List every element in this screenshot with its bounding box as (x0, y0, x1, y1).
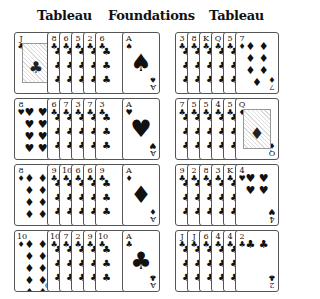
foundation-card[interactable]: A♣♣A♣ (122, 230, 160, 292)
card-index-bottom: A♦ (149, 207, 157, 223)
card-index-bottom: A♥ (149, 141, 157, 157)
card-index-bottom: A♠ (149, 75, 157, 91)
card-index-bottom: 4♥ (268, 207, 276, 223)
suit-icon: ♦ (244, 124, 270, 143)
suit-icon: ♣ (102, 127, 111, 137)
suit-icon: ♣ (102, 47, 111, 57)
suit-pips: ♦ ♦♦ ♦♦ ♦♦ (236, 41, 278, 89)
suit-pips: ♥ ♥♥ ♥ (236, 173, 278, 197)
card-index-bottom: A♣ (149, 273, 157, 289)
suit-icon: ♣ (102, 207, 111, 217)
right-tableau-card[interactable]: Q♦Q♦♦ (235, 98, 279, 160)
face-card-art: ♣ (22, 43, 50, 83)
suit-icon: ♣ (102, 193, 111, 203)
suit-icon: ♦ (123, 183, 159, 207)
right-tableau-header: Tableau (209, 8, 264, 23)
foundation-card[interactable]: A♦♦A♦ (122, 164, 160, 226)
suit-icon: ♣ (102, 259, 111, 269)
suit-icon: ♣ (102, 75, 111, 85)
right-tableau-card[interactable]: 2♣2♣♣ ♣ (235, 230, 279, 292)
suit-icon: ♣ (102, 61, 111, 71)
suit-icon: ♣ (123, 249, 159, 273)
right-tableau-card[interactable]: 7♦7♦♦ ♦♦ ♦♦ ♦♦ (235, 32, 279, 94)
suit-icon: ♥ (123, 117, 159, 141)
suit-icon: ♣ (102, 113, 111, 123)
suit-icon: ♣ (102, 141, 111, 151)
foundations-header: Foundations (108, 8, 195, 23)
suit-icon: ♣ (102, 273, 111, 283)
suit-icon: ♣ (23, 58, 49, 77)
suit-icon: ♣ (102, 179, 111, 189)
foundation-card[interactable]: A♥♥A♥ (122, 98, 160, 160)
suit-icon: ♠ (123, 51, 159, 75)
right-tableau-card[interactable]: 4♥4♥♥ ♥♥ ♥ (235, 164, 279, 226)
card-index-bottom: 2♣ (268, 273, 276, 289)
foundation-card[interactable]: A♠♠A♠ (122, 32, 160, 94)
suit-icon: ♣ (102, 245, 111, 255)
face-card-art: ♦ (243, 109, 271, 149)
suit-pips: ♣ ♣ (236, 239, 278, 251)
left-tableau-header: Tableau (37, 8, 92, 23)
